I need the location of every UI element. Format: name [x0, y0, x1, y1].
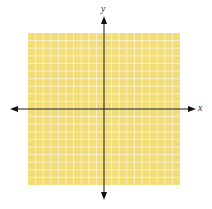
x-axis-right-arrow-icon: [188, 106, 196, 112]
y-axis-up-arrow-icon: [101, 16, 107, 24]
y-axis-label: y: [101, 4, 105, 14]
y-axis-down-arrow-icon: [101, 192, 107, 200]
x-axis-label: x: [198, 103, 202, 113]
coordinate-plane: [0, 0, 212, 209]
x-axis-left-arrow-icon: [10, 106, 18, 112]
